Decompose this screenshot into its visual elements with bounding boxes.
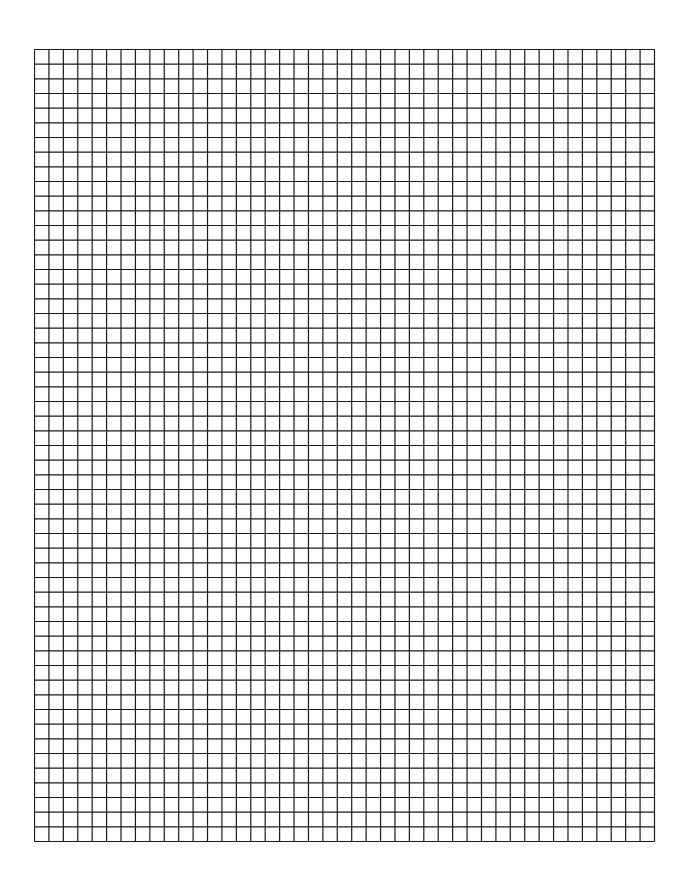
grid-lines [34,49,656,843]
